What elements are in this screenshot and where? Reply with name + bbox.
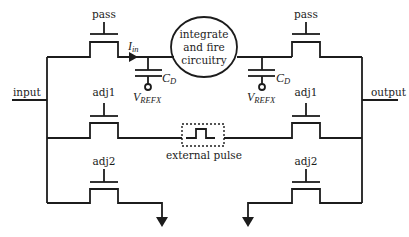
right-pass-transistor: pass bbox=[292, 8, 362, 57]
right-capacitor: CD VREFX bbox=[247, 57, 291, 105]
svg-text:and fire: and fire bbox=[183, 41, 224, 53]
output-label: output bbox=[371, 86, 407, 98]
right-adj1-transistor: adj1 bbox=[224, 86, 362, 138]
svg-text:pass: pass bbox=[294, 8, 318, 20]
left-vref-label: VREFX bbox=[133, 90, 162, 105]
svg-text:adj1: adj1 bbox=[295, 86, 318, 98]
left-pass-gate-label: pass bbox=[92, 8, 116, 20]
current-arrow: Iin bbox=[127, 39, 174, 62]
vref-node-icon bbox=[259, 84, 265, 90]
vref-node-icon bbox=[145, 84, 151, 90]
left-capacitor: CD VREFX bbox=[133, 57, 177, 105]
left-adj1-transistor: adj1 bbox=[47, 86, 182, 138]
svg-text:adj2: adj2 bbox=[93, 155, 116, 167]
svg-text:integrate: integrate bbox=[180, 28, 229, 40]
right-adj2-transistor: adj2 bbox=[242, 155, 362, 227]
right-vref-label: VREFX bbox=[247, 90, 276, 105]
svg-text:circuitry: circuitry bbox=[181, 54, 226, 66]
svg-text:adj2: adj2 bbox=[295, 155, 318, 167]
ground-arrow-icon bbox=[242, 217, 254, 227]
integrate-fire-block: integrate and fire circuitry bbox=[171, 17, 237, 77]
svg-text:adj1: adj1 bbox=[93, 86, 116, 98]
input-label: input bbox=[13, 86, 42, 98]
left-pass-transistor: pass bbox=[47, 8, 130, 57]
circuit-diagram: input pass Iin CD VREFX integrate and fi… bbox=[0, 0, 409, 237]
svg-text:external pulse: external pulse bbox=[166, 149, 242, 161]
output-terminal: output bbox=[362, 86, 407, 100]
current-label: Iin bbox=[127, 39, 139, 54]
ground-arrow-icon bbox=[156, 217, 168, 227]
external-pulse-source: external pulse bbox=[166, 124, 242, 161]
left-cap-label: CD bbox=[162, 71, 177, 86]
pulse-waveform-icon bbox=[186, 129, 215, 138]
right-cap-label: CD bbox=[276, 71, 291, 86]
left-adj2-transistor: adj2 bbox=[47, 155, 168, 227]
input-terminal: input bbox=[12, 86, 47, 100]
